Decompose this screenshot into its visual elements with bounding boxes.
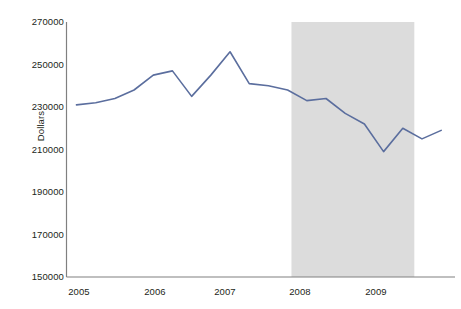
plot-area [0, 0, 461, 309]
line-chart: Dollars 270000 250000 230000 210000 1900… [0, 0, 461, 309]
shaded-recession-band [291, 22, 414, 277]
